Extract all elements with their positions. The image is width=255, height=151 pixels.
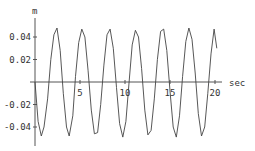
chart: m 0.040.02-0.02-0.04 sec 5101520: [0, 0, 255, 151]
y-tick-label: -0.02: [4, 100, 31, 110]
x-axis-label: sec: [229, 78, 245, 88]
x-tick-label: 20: [210, 88, 221, 98]
y-tick-label: -0.04: [4, 122, 31, 132]
y-axis-label: m: [32, 6, 37, 16]
data-line: [35, 28, 217, 137]
y-axis: m 0.040.02-0.02-0.04: [4, 6, 38, 146]
y-tick-label: 0.02: [9, 55, 31, 65]
y-tick-label: 0.04: [9, 32, 31, 42]
x-tick-label: 5: [77, 88, 82, 98]
